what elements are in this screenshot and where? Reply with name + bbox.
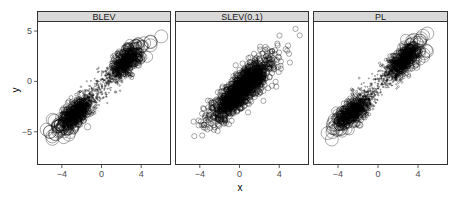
faceted-scatter-chart: BLEV−404−505SLEV(0.1)−404PL−404 y x (0, 0, 462, 203)
y-tick-label: −5 (22, 127, 32, 137)
y-tick-label: 5 (27, 26, 32, 36)
x-tick-label: 4 (415, 169, 420, 179)
panel-pl: PL−404 (313, 12, 448, 180)
x-tick-label: 0 (375, 169, 380, 179)
facet-title: PL (375, 12, 386, 22)
x-tick-label: 0 (237, 169, 242, 179)
facet-title: SLEV(0.1) (221, 12, 263, 22)
x-tick-label: −4 (195, 169, 205, 179)
panel-blev: BLEV−404−505 (22, 12, 171, 180)
y-axis-label: y (10, 88, 21, 93)
x-tick-label: 4 (139, 169, 144, 179)
facet-title: BLEV (92, 12, 115, 22)
x-tick-label: 4 (277, 169, 282, 179)
y-tick-label: 0 (27, 76, 32, 86)
x-tick-label: 0 (99, 169, 104, 179)
x-tick-label: −4 (333, 169, 343, 179)
x-axis-label: x (238, 182, 243, 193)
x-tick-label: −4 (57, 169, 67, 179)
panel-slev-0-1-: SLEV(0.1)−404 (175, 12, 309, 180)
